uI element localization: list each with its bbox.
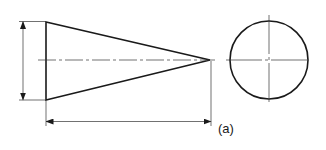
figure-label: (a) [218,122,234,135]
end-view [226,15,313,106]
cone-drawing [0,0,326,150]
cone-outline [46,22,210,100]
cone-elevation [38,22,215,100]
diameter-dimension [19,22,46,101]
